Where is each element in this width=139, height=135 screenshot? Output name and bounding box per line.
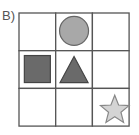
grid-cell — [19, 88, 56, 126]
circle-shape — [60, 16, 89, 45]
grid-cell — [19, 13, 56, 51]
grid-cell — [56, 88, 93, 126]
grid-cell — [92, 13, 129, 51]
shape-grid — [0, 0, 139, 135]
grid-cell — [92, 51, 129, 89]
square-shape — [24, 56, 50, 83]
